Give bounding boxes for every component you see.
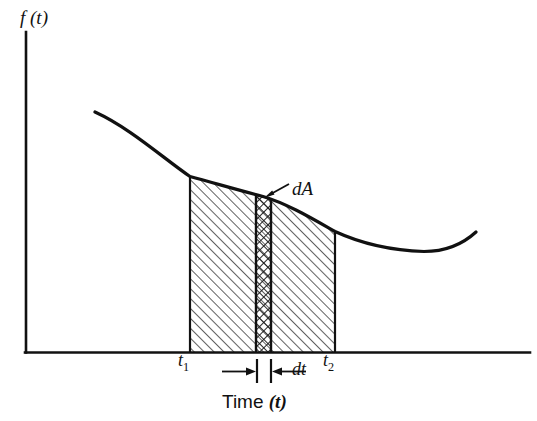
differential-strip-dA	[254, 190, 274, 354]
x-axis-label: Time (t)	[222, 392, 287, 411]
tick-label-t2: t2	[323, 351, 334, 373]
x-axis-label-text: Time	[222, 391, 269, 412]
dA-leader-arrow	[264, 184, 289, 198]
x-axis-label-variable: (t)	[269, 391, 287, 412]
y-axis-label: f (t)	[20, 8, 48, 27]
plot-svg	[0, 0, 537, 421]
tick-label-t1: t1	[178, 351, 189, 373]
figure-canvas: f (t) dA t1 t2 dt Time (t)	[0, 0, 537, 421]
annotation-dt-label: dt	[292, 360, 306, 378]
tick-label-t2-subscript: 2	[328, 360, 334, 374]
annotation-dA-label: dA	[292, 179, 313, 198]
tick-label-t1-subscript: 1	[183, 360, 189, 374]
